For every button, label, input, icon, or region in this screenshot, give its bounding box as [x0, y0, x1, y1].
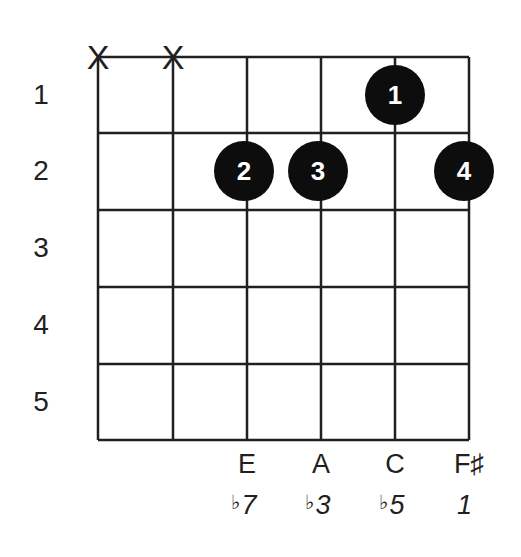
interval-value: 3: [315, 490, 330, 520]
mute-marker-string-6: X: [83, 40, 113, 74]
finger-label-3: 3: [288, 158, 348, 184]
interval-value: 1: [457, 490, 472, 520]
interval-value: 5: [389, 490, 404, 520]
fret-number-4: 4: [26, 309, 56, 341]
interval-string-4: ♭7: [214, 490, 274, 521]
interval-string-1: 1: [434, 490, 494, 521]
fret-number-3: 3: [26, 232, 56, 264]
finger-label-1: 1: [365, 82, 425, 108]
note-string-3: A: [296, 449, 346, 480]
finger-label-4: 4: [434, 158, 494, 184]
note-string-4: E: [222, 449, 272, 480]
fret-number-1: 1: [26, 79, 56, 111]
note-string-2: C: [370, 449, 420, 480]
finger-label-2: 2: [214, 158, 274, 184]
mute-marker-string-5: X: [158, 40, 188, 74]
note-string-1: F♯: [444, 449, 494, 480]
interval-value: 7: [241, 490, 256, 520]
interval-string-2: ♭5: [362, 490, 422, 521]
flat-symbol: ♭: [379, 491, 388, 513]
fret-number-5: 5: [26, 386, 56, 418]
fret-number-2: 2: [26, 155, 56, 187]
flat-symbol: ♭: [305, 491, 314, 513]
flat-symbol: ♭: [231, 491, 240, 513]
interval-string-3: ♭3: [288, 490, 348, 521]
